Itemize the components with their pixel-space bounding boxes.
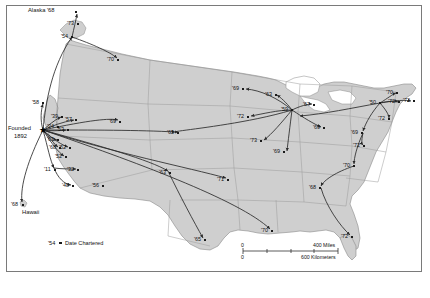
- chapter-year-Virginia: '72: [353, 143, 360, 148]
- chapter-dot-Nevada: [75, 119, 78, 122]
- chapter-dot-New-Jersey: [388, 118, 391, 121]
- chapter-dot-Chicago-hub: [291, 109, 294, 112]
- chapter-dot-Kentucky: [283, 151, 286, 154]
- chapter-year-San-Diego: '48: [62, 183, 69, 188]
- chapter-dot-North-Carolina: [353, 165, 356, 168]
- chapter-dot-Oklahoma: [227, 179, 230, 182]
- chapter-year-New-Jersey: '72: [378, 116, 385, 121]
- legend-label: Date Chartered: [65, 240, 103, 246]
- chapter-year-Southern-California-2: '52: [55, 154, 62, 159]
- chapter-dot-Ohio: [323, 127, 326, 130]
- chapter-year-Washington-north: '73: [67, 21, 74, 26]
- chapter-year-Louisiana: '70: [261, 228, 268, 233]
- chapter-dot-New-Mexico: [169, 172, 172, 175]
- chapter-year-North-Dakota: '69: [232, 86, 239, 91]
- chapter-year-Kentucky: '69: [273, 149, 280, 154]
- scale-miles-max: 400 Miles: [313, 242, 335, 248]
- chapter-dot-Colorado: [177, 132, 180, 135]
- chapter-dot-Los-Angeles: [54, 169, 57, 172]
- chapter-dot-New-England-2: [398, 101, 401, 104]
- chapter-dot-Florida: [351, 236, 354, 239]
- chapter-year-Ohio: '69: [313, 125, 320, 130]
- chapter-dot-Northern-California: [42, 102, 45, 105]
- chapter-dot-North-Dakota: [242, 88, 245, 91]
- chapter-dot-Southern-California: [69, 147, 72, 150]
- chapter-dot-Maryland: [361, 132, 364, 135]
- chapter-year-Montana: '70: [107, 57, 114, 62]
- chapter-dot-Minnesota: [275, 94, 278, 97]
- chapter-year-Nebraska: '72: [237, 114, 244, 119]
- chapter-dot-New-England: [396, 92, 399, 95]
- chapter-dot-Texas-south: [204, 239, 207, 242]
- origin-label-line2: 1892: [14, 134, 27, 140]
- chapter-year-California-coast-2: '68: [49, 145, 56, 150]
- chapter-dot-Michigan: [313, 104, 316, 107]
- chapter-dot-Bay-Area: [61, 116, 64, 119]
- chapter-dot-Southern-California-2: [65, 156, 68, 159]
- chapter-year-Michigan: '67: [303, 102, 310, 107]
- chapter-year-Massachusetts: '72: [403, 98, 410, 103]
- chapter-dot-Georgia: [319, 187, 322, 190]
- chapter-year-Oklahoma: '71: [217, 177, 224, 182]
- chapter-year-Los-Angeles: '11: [44, 167, 51, 172]
- chapter-dot-Los-Angeles-2: [77, 169, 80, 172]
- chapter-dot-California-coast: [57, 139, 60, 142]
- chapter-dot-Louisiana: [271, 230, 274, 233]
- chapter-year-Missouri: '73: [250, 138, 257, 143]
- chapter-year-Arizona: '56: [92, 183, 99, 188]
- chapter-year-Northern-California: '58: [32, 100, 39, 105]
- chapter-year-Nevada: '57: [65, 117, 72, 122]
- chapter-dot-Central-California: [67, 129, 70, 132]
- chapter-year-Chicago-hub: '59: [281, 107, 288, 112]
- chapter-dot-Alaska: [75, 11, 78, 14]
- legend-year-sample: '54: [48, 240, 55, 246]
- origin-label-line1: Founded: [8, 126, 31, 132]
- origin-star-marker: ★: [39, 126, 47, 135]
- chapter-year-New-England: '70: [386, 90, 393, 95]
- place-label-alaska: Alaska '68: [28, 8, 55, 14]
- chapter-year-Hawaii: '68: [11, 202, 18, 207]
- chapter-dot-Hawaii: [22, 204, 25, 207]
- chapter-dot-Nebraska: [247, 116, 250, 119]
- chapter-dot-Washington-north: [77, 23, 80, 26]
- chapter-dot-Arizona: [102, 185, 105, 188]
- chapter-year-Washington: '54: [61, 34, 68, 39]
- chapter-year-Utah: '69: [109, 119, 116, 124]
- chapter-year-Southern-California: '52: [59, 145, 66, 150]
- chapter-year-California-coast: '63: [47, 137, 54, 142]
- chapter-year-Central-California: '53: [57, 127, 64, 132]
- chapter-year-Bay-Area-2: '24: [47, 124, 54, 129]
- chapter-dot-Utah: [119, 121, 122, 124]
- chapter-year-Florida: '72: [341, 234, 348, 239]
- chapter-year-Los-Angeles-2: '32: [67, 167, 74, 172]
- chapter-dot-San-Diego: [72, 185, 75, 188]
- chapter-dot-New-York: [379, 102, 382, 105]
- chapter-year-Georgia: '68: [309, 185, 316, 190]
- chapter-year-Maryland: '69: [351, 130, 358, 135]
- scale-km-zero: 0: [241, 254, 244, 260]
- chapter-dot-Washington: [71, 36, 74, 39]
- scale-miles-zero: 0: [241, 242, 244, 248]
- chapter-year-Colorado: '65: [167, 130, 174, 135]
- chapter-year-Minnesota: '63: [265, 92, 272, 97]
- chapter-year-Texas-south: '65: [194, 237, 201, 242]
- legend-dot-icon: [59, 242, 62, 245]
- place-label-hawaii: Hawaii: [22, 210, 39, 216]
- chapter-year-New-England-2: '72: [388, 99, 395, 104]
- chapter-year-North-Carolina: '70: [343, 163, 350, 168]
- chapter-dot-Montana: [117, 59, 120, 62]
- chapter-dot-Massachusetts: [413, 100, 416, 103]
- chapter-year-Bay-Area: '39: [51, 114, 58, 119]
- chapter-year-New-Mexico: '63: [159, 170, 166, 175]
- scale-km-max: 600 Kilometers: [301, 254, 336, 260]
- chapter-dot-Missouri: [260, 140, 263, 143]
- chapter-year-New-York: '50: [369, 100, 376, 105]
- chapter-dot-Virginia: [363, 145, 366, 148]
